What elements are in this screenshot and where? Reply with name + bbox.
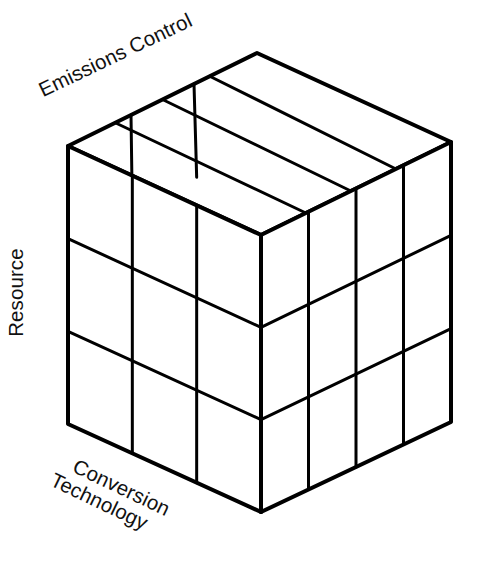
axis-label-resource: Resource (5, 248, 27, 337)
diagram-canvas: Emissions Control Resource Conversion Te… (0, 0, 479, 563)
